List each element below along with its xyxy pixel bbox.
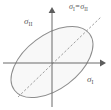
vertical-axis-label-subscript: II <box>28 21 32 27</box>
principal-stress-diagram <box>0 0 111 110</box>
horizontal-axis-arrow-icon <box>100 60 106 67</box>
horizontal-axis-label: σI <box>87 75 93 84</box>
hydrostatic-line-label-subscript-left: I <box>73 6 75 12</box>
hydrostatic-line-label-subscript-right: II <box>84 6 88 12</box>
figure-container: σII σI σI=σII <box>0 0 111 110</box>
hydrostatic-line-label: σI=σII <box>69 3 88 11</box>
vertical-axis-arrow-icon <box>49 7 56 13</box>
yield-locus-ellipse <box>0 12 106 110</box>
yield-locus-ellipse-group <box>0 12 106 110</box>
vertical-axis-label: σII <box>24 17 32 26</box>
